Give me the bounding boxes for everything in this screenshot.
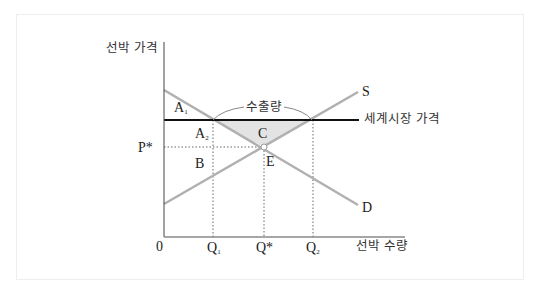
exports-bracket-left xyxy=(213,107,244,120)
a2-main: A xyxy=(195,126,205,141)
p-star-label: P* xyxy=(138,141,153,155)
q-star-label: Q* xyxy=(256,241,273,255)
origin-label: 0 xyxy=(156,240,163,254)
q2-label: Q2 xyxy=(306,241,320,256)
x-axis-label: 선박 수량 xyxy=(356,240,408,253)
y-axis-label: 선박 가격 xyxy=(106,42,158,55)
a1-main: A xyxy=(174,100,184,115)
area-b-label: B xyxy=(195,157,204,171)
q1-main: Q xyxy=(207,240,217,255)
diagram-canvas xyxy=(0,0,550,287)
a2-sub: 2 xyxy=(205,134,209,142)
q1-label: Q1 xyxy=(207,241,221,256)
a1-sub: 1 xyxy=(184,108,188,116)
equilibrium-e-label: E xyxy=(266,155,275,169)
q2-main: Q xyxy=(306,240,316,255)
supply-label: S xyxy=(362,85,370,99)
equilibrium-point xyxy=(261,144,267,150)
guide-lines xyxy=(164,120,313,237)
area-a1-label: A1 xyxy=(174,101,188,116)
world-price-label: 세계시장 가격 xyxy=(364,113,440,126)
area-c-label: C xyxy=(258,127,267,141)
exports-bracket-right xyxy=(284,107,312,120)
area-a2-label: A2 xyxy=(195,127,209,142)
q2-sub: 2 xyxy=(316,248,320,256)
q1-sub: 1 xyxy=(217,248,221,256)
exports-label: 수출량 xyxy=(246,101,282,114)
demand-label: D xyxy=(362,201,372,215)
